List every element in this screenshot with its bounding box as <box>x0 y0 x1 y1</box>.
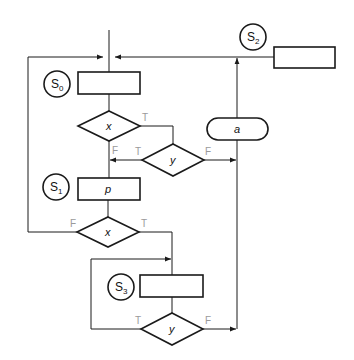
conditional-output-label: a <box>234 123 240 135</box>
d2-true-label: T <box>135 146 141 157</box>
state-s2: S2 <box>240 24 335 68</box>
d1-true-line <box>140 126 173 144</box>
decision-x-3: x <box>77 217 139 247</box>
d1-true-label: T <box>142 112 148 123</box>
d1-false-label: F <box>112 145 118 156</box>
state-s1-output-label: p <box>104 183 111 195</box>
asm-chart-diagram: S0 x T F y T F a S2 S1 p x F <box>0 0 354 360</box>
state-s0: S0 <box>44 71 140 97</box>
d4-true-label: T <box>135 315 141 326</box>
state-s1: S1 p <box>43 174 140 200</box>
state-s0-box <box>78 72 140 94</box>
conditional-output-a: a <box>207 118 268 140</box>
state-s3-box <box>140 275 203 297</box>
decision-x-3-label: x <box>104 226 111 238</box>
d3-true-line <box>139 232 172 275</box>
state-s3: S3 <box>108 274 203 300</box>
decision-y-4: y <box>141 313 203 345</box>
d4-false-label: F <box>205 315 211 326</box>
d2-false-label: F <box>205 146 211 157</box>
decision-x-1-label: x <box>105 120 112 132</box>
d3-true-label: T <box>141 218 147 229</box>
d3-false-label: F <box>70 218 76 229</box>
state-s2-box <box>274 47 335 68</box>
decision-x-1: x <box>78 111 140 141</box>
decision-y-2: y <box>142 144 204 176</box>
